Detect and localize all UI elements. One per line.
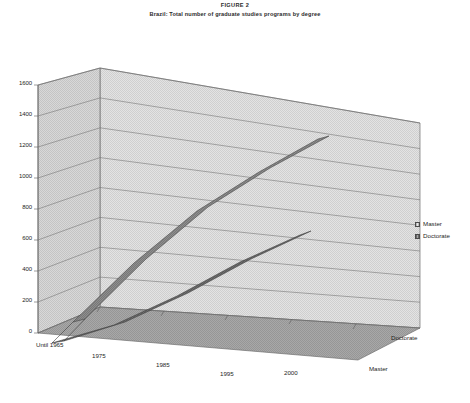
legend-item-doctorate[interactable]: Doctorate — [415, 233, 467, 239]
legend-swatch-master-icon — [415, 222, 420, 227]
chart-legend: Master Doctorate — [415, 221, 467, 245]
legend-label-doctorate: Doctorate — [423, 233, 450, 239]
x-tick-until-1965: Until 1965 — [36, 341, 63, 348]
x-axis-labels: Until 1965 1975 1985 1995 2000 — [0, 60, 470, 403]
legend-swatch-doctorate-icon — [415, 234, 420, 239]
legend-label-master: Master — [423, 221, 442, 227]
x-tick-1985: 1985 — [156, 361, 170, 368]
figure-number-label: FIGURE 2 — [0, 2, 470, 9]
figure-subtitle: Brazil: Total number of graduate studies… — [0, 11, 470, 18]
figure-container: FIGURE 2 Brazil: Total number of graduat… — [0, 0, 470, 403]
legend-item-master[interactable]: Master — [415, 221, 467, 227]
z-axis-label-master: Master — [369, 365, 388, 372]
chart-title-block: FIGURE 2 Brazil: Total number of graduat… — [0, 2, 470, 18]
x-tick-2000: 2000 — [284, 369, 298, 376]
x-tick-1995: 1995 — [220, 370, 234, 377]
x-tick-1975: 1975 — [92, 352, 106, 359]
z-axis-label-doctorate: Doctorate — [391, 334, 417, 341]
